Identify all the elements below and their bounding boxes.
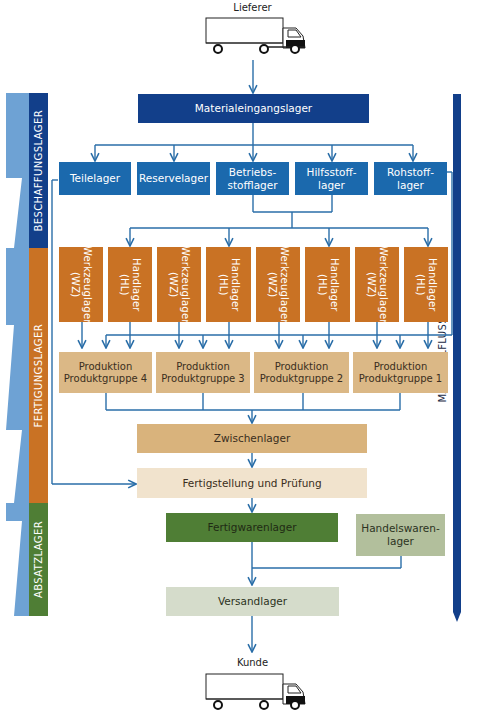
node-merchandise-stock-label: Handelswaren- lager (361, 522, 440, 547)
node-auxiliary-materials-stock: Hilfsstoff- lager (295, 162, 368, 195)
node-raw-materials-stock-label: Rohstoff- lager (387, 166, 434, 191)
node-tool-stock-1: Werkzeuglager (WZ) (355, 247, 399, 322)
node-finishing-and-testing-label: Fertigstellung und Prüfung (182, 477, 321, 490)
node-parts-stock-label: Teilelager (70, 172, 120, 185)
node-tool-stock-1-label: Werkzeuglager (WZ) (365, 246, 389, 324)
node-raw-materials-stock: Rohstoff- lager (374, 162, 447, 195)
node-tool-stock-3-label: Werkzeuglager (WZ) (167, 246, 191, 324)
node-incoming-stock: Materialeingangslager (138, 94, 369, 123)
node-intermediate-stock: Zwischenlager (137, 424, 367, 453)
node-production-group-3: Produktion Produktgruppe 3 (156, 352, 250, 393)
node-hand-stock-3-label: Handlager (HL) (217, 258, 241, 312)
node-production-group-2: Produktion Produktgruppe 2 (254, 352, 349, 393)
node-hand-stock-3: Handlager (HL) (206, 247, 251, 322)
node-tool-stock-4: Werkzeuglager (WZ) (59, 247, 103, 322)
node-production-group-1-label: Produktion Produktgruppe 1 (359, 361, 442, 385)
node-operating-supplies-stock: Betriebs- stofflager (216, 162, 289, 195)
node-shipping-stock: Versandlager (166, 587, 339, 616)
node-hand-stock-2: Handlager (HL) (305, 247, 350, 322)
node-reserve-stock-label: Reservelager (139, 172, 208, 185)
node-production-group-3-label: Produktion Produktgruppe 3 (161, 361, 244, 385)
node-intermediate-stock-label: Zwischenlager (214, 432, 291, 445)
node-hand-stock-4: Handlager (HL) (108, 247, 152, 322)
node-finished-goods-stock: Fertigwarenlager (166, 513, 338, 542)
node-production-group-4-label: Produktion Produktgruppe 4 (64, 361, 147, 385)
node-production-group-1: Produktion Produktgruppe 1 (353, 352, 448, 393)
node-shipping-stock-label: Versandlager (218, 595, 287, 608)
node-hand-stock-1: Handlager (HL) (404, 247, 448, 322)
node-tool-stock-3: Werkzeuglager (WZ) (157, 247, 201, 322)
node-tool-stock-2: Werkzeuglager (WZ) (256, 247, 300, 322)
node-production-group-2-label: Produktion Produktgruppe 2 (260, 361, 343, 385)
node-operating-supplies-stock-label: Betriebs- stofflager (227, 166, 277, 191)
node-incoming-stock-label: Materialeingangslager (195, 102, 312, 115)
node-tool-stock-4-label: Werkzeuglager (WZ) (69, 246, 93, 324)
node-parts-stock: Teilelager (59, 162, 131, 195)
node-hand-stock-4-label: Handlager (HL) (118, 258, 142, 312)
node-merchandise-stock: Handelswaren- lager (356, 514, 445, 556)
node-reserve-stock: Reservelager (137, 162, 210, 195)
node-production-group-4: Produktion Produktgruppe 4 (59, 352, 152, 393)
node-finishing-and-testing: Fertigstellung und Prüfung (137, 468, 367, 498)
node-auxiliary-materials-stock-label: Hilfsstoff- lager (307, 166, 357, 191)
node-hand-stock-2-label: Handlager (HL) (316, 258, 340, 312)
node-hand-stock-1-label: Handlager (HL) (414, 258, 438, 312)
node-tool-stock-2-label: Werkzeuglager (WZ) (266, 246, 290, 324)
node-finished-goods-stock-label: Fertigwarenlager (208, 521, 297, 534)
